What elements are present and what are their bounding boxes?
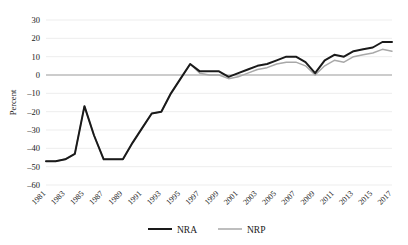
x-tick-label: 1997	[184, 189, 202, 207]
x-tick-label: 2015	[357, 189, 375, 207]
y-axis-title: Percent	[8, 89, 18, 115]
x-tick-label: 2013	[337, 189, 355, 207]
legend-label-nrp: NRP	[247, 225, 265, 235]
x-tick-label: 1983	[49, 189, 67, 207]
y-axis-title: Percent	[8, 89, 18, 115]
x-tick-label: 2017	[376, 189, 394, 207]
y-tick-label: –10	[26, 88, 40, 98]
x-axis-tick-labels: 1981198319851987198919911993199519971999…	[30, 189, 394, 207]
x-tick-label: 1989	[107, 189, 125, 207]
series-lines	[46, 42, 392, 161]
line-chart: 3020100–10–20–30–40–50–60 19811983198519…	[0, 0, 408, 245]
x-tick-label: 2011	[318, 189, 335, 206]
y-tick-label: 30	[32, 15, 41, 25]
x-tick-label: 1995	[164, 189, 182, 207]
x-tick-label: 1993	[145, 189, 163, 207]
x-tick-label: 2007	[280, 189, 298, 207]
x-tick-label: 2005	[260, 189, 278, 207]
x-tick-label: 1985	[68, 189, 86, 207]
x-tick-label: 2009	[299, 189, 317, 207]
x-tick-label: 1991	[126, 189, 144, 207]
y-tick-label: –30	[26, 125, 40, 135]
y-tick-label: –40	[26, 143, 40, 153]
y-tick-label: 0	[36, 70, 40, 80]
y-tick-label: –20	[26, 107, 40, 117]
chart-container: 3020100–10–20–30–40–50–60 19811983198519…	[0, 0, 408, 245]
x-tick-label: 1987	[87, 189, 105, 207]
series-line-nra	[46, 42, 392, 161]
x-tick-label: 2003	[241, 189, 259, 207]
y-tick-label: –50	[26, 162, 40, 172]
y-tick-label: 10	[32, 52, 41, 62]
legend-label-nra: NRA	[177, 225, 197, 235]
chart-legend: NRANRP	[148, 225, 265, 235]
x-tick-label: 1981	[30, 189, 48, 207]
y-tick-label: –60	[26, 180, 40, 190]
y-tick-label: 20	[32, 33, 41, 43]
gridlines	[46, 20, 392, 185]
y-axis-tick-labels: 3020100–10–20–30–40–50–60	[26, 15, 40, 190]
x-tick-label: 1999	[203, 189, 221, 207]
x-tick-label: 2001	[222, 189, 240, 207]
